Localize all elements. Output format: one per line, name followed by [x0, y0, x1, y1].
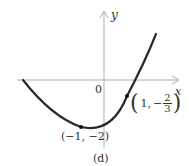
origin-label: 0 [95, 84, 102, 95]
point-1-label: ( 1, − 2 3 ) [130, 92, 181, 114]
point-1 [125, 94, 129, 98]
y-axis-label: y [111, 9, 118, 21]
paren-open: ( [130, 92, 139, 114]
vertex-point [79, 125, 83, 129]
fraction-numerator: 2 [163, 93, 171, 104]
fraction-denominator: 3 [164, 104, 170, 114]
vertex-label: (−1, −2) [61, 131, 109, 142]
point-1-prefix: 1, [141, 98, 152, 109]
paren-close: ) [173, 92, 182, 114]
fraction: 2 3 [163, 93, 171, 114]
minus-sign: − [153, 98, 162, 109]
figure-caption: (d) [93, 153, 109, 164]
